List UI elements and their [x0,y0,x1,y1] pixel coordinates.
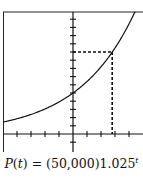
exponential-growth-graph [0,0,143,152]
function-exponent: t [135,156,138,165]
function-variable: t [18,156,23,171]
function-caption: P(t) = (50,000)1.025t [0,156,143,178]
dashed-guides [73,52,112,134]
function-expression: = (50,000)1.025 [28,156,136,171]
exponential-curve [3,12,135,122]
axes [3,12,143,152]
function-name: P [4,156,12,171]
